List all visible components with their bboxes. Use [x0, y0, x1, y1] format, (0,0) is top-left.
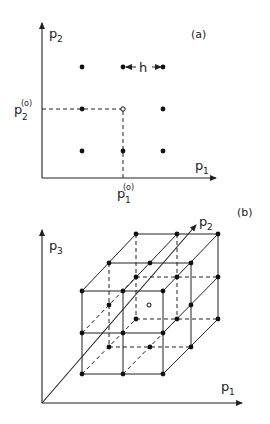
center-point-b	[147, 303, 151, 307]
center-point-a	[121, 107, 125, 111]
p1-axis-label: p 1	[195, 158, 209, 176]
svg-text:1: 1	[203, 166, 209, 176]
p1-axis-label-b: p 1	[221, 379, 235, 397]
p2-zero-label: p 2 (o)	[14, 99, 32, 122]
svg-text:1: 1	[125, 195, 131, 205]
step-h-label: h	[139, 60, 147, 75]
p2-axis-label-b: p 2	[199, 214, 213, 232]
panel-b: (b) p 3 p 2 p 1	[42, 206, 253, 403]
panel-a: h (a) p 2 p 1 p 2 (o) p 1 (o)	[14, 23, 216, 205]
panel-a-label: (a)	[191, 28, 206, 41]
p3-axis-label: p 3	[49, 238, 63, 256]
svg-text:2: 2	[57, 34, 63, 44]
svg-text:(o): (o)	[21, 99, 32, 108]
figure-canvas: h (a) p 2 p 1 p 2 (o) p 1 (o)	[0, 0, 270, 424]
svg-text:2: 2	[22, 112, 28, 122]
svg-text:1: 1	[229, 387, 235, 397]
p2-axis-label: p 2	[49, 26, 63, 44]
svg-text:3: 3	[57, 246, 63, 256]
diagram-svg: h (a) p 2 p 1 p 2 (o) p 1 (o)	[0, 0, 270, 424]
panel-b-label: (b)	[237, 206, 253, 219]
svg-text:2: 2	[207, 222, 213, 232]
svg-text:(o): (o)	[123, 183, 134, 192]
p1-zero-label: p 1 (o)	[117, 183, 134, 205]
step-h-indicator: h	[126, 60, 161, 75]
